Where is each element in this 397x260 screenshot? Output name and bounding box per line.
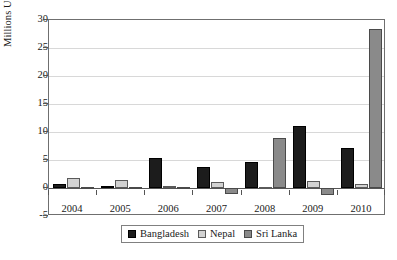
legend-item-nepal: Nepal <box>198 228 235 240</box>
y-tick-label: 5 <box>6 154 48 164</box>
x-tick-label-2009: 2009 <box>290 203 336 214</box>
gridline <box>49 48 384 49</box>
legend-swatch-icon <box>198 230 206 238</box>
gridline <box>49 76 384 77</box>
y-tick-label: 20 <box>6 70 48 80</box>
legend-swatch-icon <box>128 230 136 238</box>
y-tick-label: 30 <box>6 14 48 24</box>
x-tick-label-2010: 2010 <box>338 203 384 214</box>
bar-sri-lanka-2010 <box>369 29 382 188</box>
bar-bangladesh-2007 <box>197 167 210 188</box>
x-tick-mark <box>289 190 290 195</box>
y-tick-label: -5 <box>6 210 48 220</box>
x-tick-label-2007: 2007 <box>194 203 240 214</box>
y-tick-label: 10 <box>6 126 48 136</box>
bar-nepal-2006 <box>163 186 176 188</box>
bar-chart-figure: Millions US$ 302520151050-5 200420052006… <box>0 0 397 260</box>
gridline <box>49 132 384 133</box>
legend-swatch-icon <box>244 230 252 238</box>
x-tick-mark <box>241 190 242 195</box>
x-tick-mark <box>337 190 338 195</box>
plot-area <box>48 19 385 215</box>
legend-item-sri-lanka: Sri Lanka <box>244 228 297 240</box>
x-tick-mark <box>192 190 193 195</box>
bar-nepal-2010 <box>355 184 368 188</box>
bar-nepal-2004 <box>67 178 80 188</box>
bar-bangladesh-2009 <box>293 126 306 188</box>
x-tick-label-2008: 2008 <box>242 203 288 214</box>
x-tick-label-2005: 2005 <box>97 203 143 214</box>
x-tick-mark <box>96 190 97 195</box>
legend-item-bangladesh: Bangladesh <box>128 228 189 240</box>
bar-bangladesh-2005 <box>101 186 114 188</box>
bar-nepal-2005 <box>115 180 128 188</box>
x-tick-label-2006: 2006 <box>145 203 191 214</box>
legend-label: Sri Lanka <box>256 228 297 240</box>
y-tick-label: 15 <box>6 98 48 108</box>
gridline <box>49 160 384 161</box>
x-tick-label-2004: 2004 <box>49 203 95 214</box>
bar-bangladesh-2010 <box>341 148 354 188</box>
x-tick-mark <box>48 190 49 195</box>
chart-legend: BangladeshNepalSri Lanka <box>121 225 304 243</box>
bar-nepal-2008 <box>259 187 272 189</box>
y-axis-ticks: 302520151050-5 <box>0 19 48 215</box>
bar-sri-lanka-2008 <box>273 138 286 188</box>
y-tick-label: 25 <box>6 42 48 52</box>
x-tick-mark <box>144 190 145 195</box>
legend-label: Bangladesh <box>140 228 189 240</box>
gridline <box>49 104 384 105</box>
legend-label: Nepal <box>210 228 235 240</box>
bar-nepal-2009 <box>307 181 320 188</box>
bar-bangladesh-2004 <box>53 184 66 188</box>
bar-nepal-2007 <box>211 182 224 188</box>
bar-bangladesh-2008 <box>245 162 258 188</box>
x-axis-ticks: 2004200520062007200820092010 <box>48 190 385 220</box>
y-tick-label: 0 <box>6 182 48 192</box>
bar-bangladesh-2006 <box>149 158 162 188</box>
x-tick-mark <box>384 190 385 195</box>
bar-sri-lanka-2006 <box>177 187 190 189</box>
